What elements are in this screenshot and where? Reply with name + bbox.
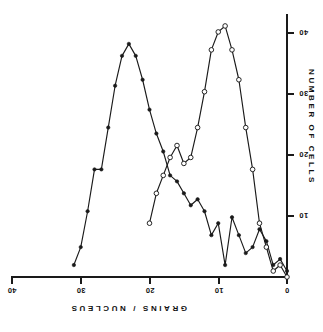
data-point [272, 263, 275, 266]
data-point [195, 125, 200, 130]
data-point [154, 191, 159, 196]
data-point [243, 125, 248, 130]
data-point [93, 168, 96, 171]
data-point [182, 161, 187, 166]
data-series-group [72, 24, 289, 280]
data-point [278, 263, 283, 268]
data-point [203, 210, 206, 213]
x-tick-label-30: 30 [76, 286, 85, 295]
data-point [155, 132, 158, 135]
filled-series-line [74, 44, 287, 271]
y-tick-label-40: 40 [299, 28, 308, 37]
data-point [244, 251, 247, 254]
data-point [237, 233, 240, 236]
data-point [120, 54, 123, 57]
data-point [162, 150, 165, 153]
data-point [230, 216, 233, 219]
figure-panel: 0 10 20 30 40 10 20 30 40 GRAINS / NUCLE… [0, 0, 323, 332]
x-tick-label-20: 20 [145, 286, 154, 295]
data-point [182, 192, 185, 195]
data-point [134, 54, 137, 57]
y-tick-label-20: 20 [299, 150, 308, 159]
data-point [217, 222, 220, 225]
y-tick-marks [287, 33, 294, 216]
grain-count-distribution-chart: 0 10 20 30 40 10 20 30 40 GRAINS / NUCLE… [0, 0, 323, 332]
data-point [237, 77, 242, 82]
data-point [250, 167, 255, 172]
data-point [257, 221, 262, 226]
data-point [72, 263, 75, 266]
data-point [86, 210, 89, 213]
data-point [223, 24, 228, 29]
x-tick-label-10: 10 [214, 286, 223, 295]
data-point [202, 89, 207, 94]
data-point [175, 180, 178, 183]
x-axis-title: GRAINS / NUCLEUS [69, 304, 187, 313]
data-point [79, 245, 82, 248]
data-point [161, 173, 166, 178]
x-tick-label-40: 40 [7, 286, 16, 295]
chart-plate: 0 10 20 30 40 10 20 30 40 GRAINS / NUCLE… [0, 0, 323, 332]
data-point [196, 198, 199, 201]
data-point [285, 275, 290, 280]
data-point [147, 221, 152, 226]
data-point [278, 257, 281, 260]
y-tick-label-10: 10 [299, 211, 308, 220]
data-point [168, 174, 171, 177]
data-point [141, 78, 144, 81]
data-point [168, 155, 173, 160]
data-point [265, 239, 268, 242]
data-point [285, 269, 288, 272]
data-point [264, 245, 269, 250]
y-tick-label-30: 30 [299, 89, 308, 98]
data-point [251, 245, 254, 248]
data-point [216, 30, 221, 35]
data-point [258, 227, 261, 230]
y-axis-title: NUMBER OF CELLS [307, 69, 316, 185]
data-point [148, 108, 151, 111]
data-point [127, 42, 130, 45]
data-point [223, 263, 226, 266]
data-point [271, 269, 276, 274]
x-tick-label-0: 0 [285, 286, 290, 295]
axis-group: 0 10 20 30 40 10 20 30 40 GRAINS / NUCLE… [7, 14, 316, 313]
data-point [230, 48, 235, 53]
data-point [100, 168, 103, 171]
data-point [175, 143, 180, 148]
data-point [210, 233, 213, 236]
data-point [113, 84, 116, 87]
x-tick-marks [12, 277, 287, 284]
data-point [209, 48, 214, 53]
data-point [107, 126, 110, 129]
data-point [188, 155, 193, 160]
data-point [189, 204, 192, 207]
